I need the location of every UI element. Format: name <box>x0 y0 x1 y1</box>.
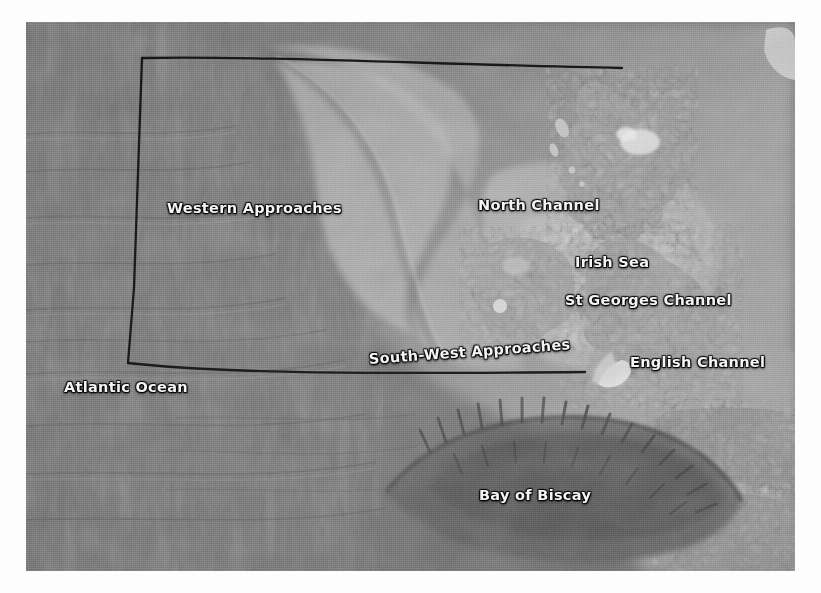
bathymetry-raster <box>26 22 795 571</box>
map-page: Western Approaches North Channel Irish S… <box>0 0 821 593</box>
map-image-plate: Western Approaches North Channel Irish S… <box>26 22 795 571</box>
